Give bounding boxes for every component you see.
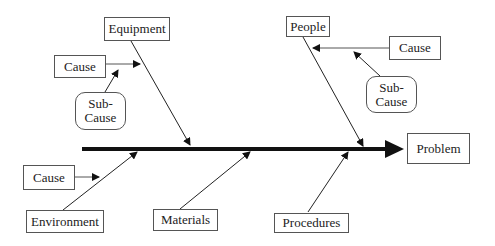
people-subcause-arrow [354,52,380,76]
equipment-cause-box: Cause [54,55,106,78]
problem-box: Problem [407,133,470,164]
spine-arrowhead [385,140,404,158]
procedures-bone [308,152,348,212]
people-subcause-box: Sub- Cause [366,76,417,113]
people-cause-box: Cause [389,36,441,60]
people-box: People [286,16,330,37]
equipment-bone [131,41,190,145]
environment-box: Environment [26,210,104,233]
equipment-box: Equipment [104,17,170,41]
materials-box: Materials [153,209,218,231]
people-bone [303,37,363,146]
environment-cause-box: Cause [23,165,75,190]
procedures-box: Procedures [274,213,349,233]
materials-bone [180,152,250,209]
equipment-subcause-box: Sub- Cause [75,92,126,130]
equipment-subcause-arrow [105,70,118,92]
